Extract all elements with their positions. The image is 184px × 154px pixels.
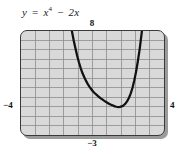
axis-label-right: 4 [170,100,175,110]
graph-figure: y = x4 − 2x [0,0,184,154]
equation-equals: = [30,6,40,18]
function-curve [21,31,164,135]
axis-label-left: −4 [3,100,13,110]
quartic-curve-path [72,31,142,107]
equation-term: 2x [69,6,80,18]
equation-caption: y = x4 − 2x [22,6,79,18]
equation-lhs: y [22,6,27,18]
equation-exponent: 4 [49,5,53,13]
graph-viewing-window [20,30,165,136]
axis-label-bottom: −3 [0,138,184,148]
equation-operator: − [55,6,65,18]
axis-label-top: 8 [0,18,184,28]
